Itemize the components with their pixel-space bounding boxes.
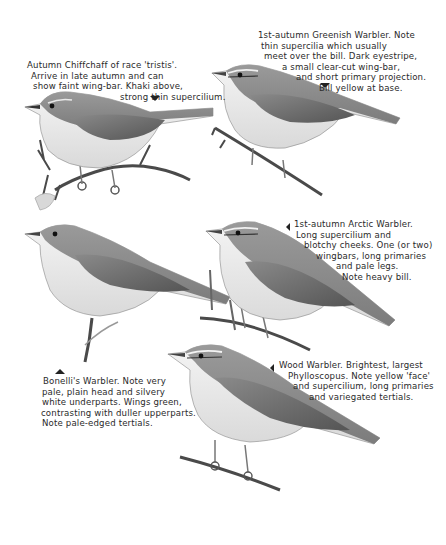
chiffchaff-illustration [24, 92, 213, 210]
caption-line: Note heavy bill. [294, 272, 432, 283]
caption-line: and variegated tertials. [279, 392, 434, 403]
caption-line: pale, plain head and silvery [42, 387, 196, 398]
pointer-down-icon [320, 83, 330, 88]
caption-line: wingbars, long primaries [294, 251, 432, 262]
pointer-left-icon [270, 364, 274, 372]
pointer-left-icon [286, 223, 290, 231]
caption-line: 1st-autumn Greenish Warbler. Note [258, 30, 426, 41]
caption-line: meet over the bill. Dark eyestripe, [258, 51, 426, 62]
field-guide-plate: Autumn Chiffchaff of race 'tristis'. Arr… [0, 0, 446, 545]
caption-arctic-warbler: 1st-autumn Arctic Warbler. Long supercil… [294, 219, 432, 283]
caption-line: 1st-autumn Arctic Warbler. [294, 219, 432, 230]
caption-greenish-warbler: 1st-autumn Greenish Warbler. Note thin s… [258, 30, 426, 94]
caption-bonellis-warbler: Bonelli's Warbler. Note very pale, plain… [43, 376, 196, 429]
caption-line: and short primary projection. [258, 72, 426, 83]
caption-line: show faint wing-bar. Khaki above, [27, 81, 226, 92]
caption-wood-warbler: Wood Warbler. Brightest, largest Phyllos… [279, 360, 434, 402]
caption-line: and pale legs. [294, 261, 432, 272]
pointer-down-icon [150, 96, 160, 101]
pointer-up-icon [55, 369, 65, 374]
bonellis-warbler-illustration [24, 225, 230, 362]
caption-line: Arrive in late autumn and can [27, 71, 226, 82]
caption-line: Phylloscopus. Note yellow 'face' [279, 371, 434, 382]
caption-line: Note pale-edged tertials. [42, 418, 196, 429]
caption-line: white underparts. Wings green, [42, 397, 196, 408]
caption-line: blotchy cheeks. One (or two) [294, 240, 432, 251]
caption-line: a small clear-cut wing-bar, [258, 62, 426, 73]
caption-chiffchaff: Autumn Chiffchaff of race 'tristis'. Arr… [27, 60, 226, 102]
caption-line: contrasting with duller upperparts. [41, 408, 196, 419]
caption-line: Wood Warbler. Brightest, largest [279, 360, 434, 371]
caption-line: Bill yellow at base. [258, 83, 426, 94]
caption-line: strong thin supercilium. [27, 92, 226, 103]
caption-line: and supercilium, long primaries [279, 381, 434, 392]
caption-line: Bonelli's Warbler. Note very [43, 376, 196, 387]
caption-line: thin supercilia which usually [258, 41, 426, 52]
caption-line: Autumn Chiffchaff of race 'tristis'. [27, 60, 226, 71]
caption-line: Long supercilium and [294, 230, 432, 241]
